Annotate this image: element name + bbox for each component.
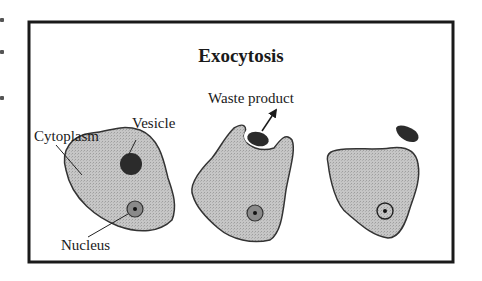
nucleolus <box>383 209 387 213</box>
diagram-title: Exocytosis <box>198 45 284 66</box>
nucleus-label: Nucleus <box>61 237 110 253</box>
waste-product-label: Waste product <box>208 90 295 106</box>
vesicle <box>120 153 142 175</box>
nucleolus <box>253 211 257 215</box>
nucleolus <box>133 207 137 211</box>
vesicle-label: Vesicle <box>132 115 176 131</box>
exocytosis-diagram: Exocytosis Cytoplasm Vesicle Nucleus Was… <box>0 0 482 281</box>
cytoplasm-label: Cytoplasm <box>34 128 99 144</box>
